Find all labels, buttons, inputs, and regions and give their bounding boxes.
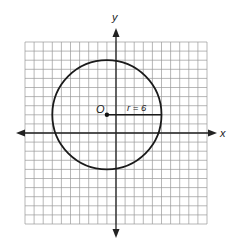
x-axis-left-arrow-icon <box>16 130 25 137</box>
axes: x y <box>16 11 226 238</box>
x-axis-label: x <box>219 127 226 139</box>
x-axis-right-arrow-icon <box>208 130 217 137</box>
radius-label: r = 6 <box>127 102 147 113</box>
y-axis-label: y <box>111 11 119 23</box>
coordinate-plane-diagram: x y O r = 6 <box>0 0 240 252</box>
y-axis-down-arrow-icon <box>113 229 120 238</box>
center-label: O <box>96 103 105 115</box>
y-axis-up-arrow-icon <box>113 28 120 37</box>
center-point <box>105 113 109 117</box>
